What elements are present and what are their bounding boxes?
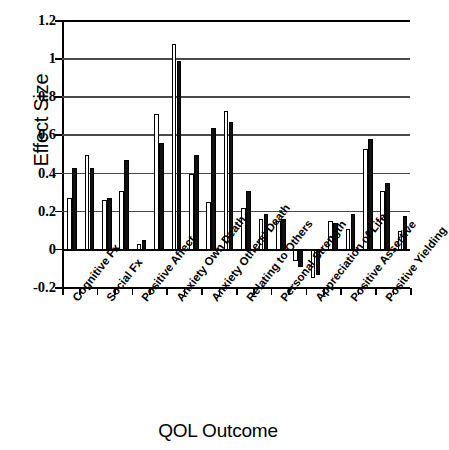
- y-axis-tick-label: 0.2: [10, 203, 56, 220]
- bar: [346, 229, 351, 250]
- x-axis-tick: [79, 288, 81, 295]
- y-axis-tick-label: -0.2: [10, 279, 56, 296]
- y-axis-tick: [55, 134, 62, 136]
- bar: [107, 198, 112, 249]
- bar: [85, 155, 90, 250]
- gridline: [62, 96, 410, 98]
- x-axis-tick: [132, 288, 134, 295]
- bar: [311, 250, 316, 279]
- bar: [363, 149, 368, 250]
- y-axis-tick: [55, 249, 62, 251]
- y-axis-tick-label: 0: [10, 241, 56, 258]
- bar: [316, 250, 321, 275]
- y-axis-tick: [55, 287, 62, 289]
- bar: [368, 139, 373, 250]
- bar: [398, 231, 403, 250]
- y-axis-tick-label: 1.2: [10, 12, 56, 29]
- x-axis-tick: [375, 288, 377, 295]
- bar: [298, 250, 303, 267]
- bar: [328, 221, 333, 250]
- bar: [385, 183, 390, 250]
- bar: [246, 191, 251, 250]
- bar: [281, 219, 286, 250]
- bar: [293, 250, 298, 261]
- bar: [224, 111, 229, 250]
- bar: [72, 168, 77, 250]
- x-axis-tick: [340, 288, 342, 295]
- x-axis-title: QOL Outcome: [0, 420, 436, 442]
- y-axis-tick: [55, 58, 62, 60]
- bar: [154, 114, 159, 249]
- x-axis-tick: [201, 288, 203, 295]
- gridline: [62, 173, 410, 175]
- x-axis-tick: [306, 288, 308, 295]
- bar: [333, 223, 338, 250]
- x-axis-tick: [166, 288, 168, 295]
- y-axis-tick: [55, 20, 62, 22]
- bar: [119, 191, 124, 250]
- plot-area: [62, 21, 410, 288]
- y-axis-tick-label: 0.6: [10, 126, 56, 143]
- bar: [259, 219, 264, 250]
- x-axis-tick: [271, 288, 273, 295]
- x-axis-tick: [358, 288, 360, 295]
- bar: [137, 244, 142, 250]
- x-axis-tick: [184, 288, 186, 295]
- bar: [172, 44, 177, 250]
- x-axis-tick: [253, 288, 255, 295]
- x-axis-tick: [410, 288, 412, 295]
- x-axis-tick: [97, 288, 99, 295]
- y-axis-tick: [55, 173, 62, 175]
- bar: [229, 122, 234, 250]
- bar: [124, 160, 129, 250]
- gridline: [62, 134, 410, 136]
- bar: [67, 198, 72, 249]
- y-axis-tick: [55, 211, 62, 213]
- bar: [264, 214, 269, 250]
- x-axis-tick: [288, 288, 290, 295]
- bar: [194, 155, 199, 250]
- x-axis-tick: [393, 288, 395, 295]
- y-axis-tick: [55, 96, 62, 98]
- bar: [241, 208, 246, 250]
- bar: [403, 216, 408, 250]
- x-axis-tick: [236, 288, 238, 295]
- bar: [102, 200, 107, 250]
- y-axis-tick-label: 1: [10, 50, 56, 67]
- bar: [189, 174, 194, 250]
- x-axis-tick: [62, 288, 64, 295]
- y-axis-tick-label: 0.4: [10, 165, 56, 182]
- bar: [90, 168, 95, 250]
- bar: [276, 221, 281, 250]
- y-axis-tick-label: 0.8: [10, 88, 56, 105]
- x-axis-tick: [323, 288, 325, 295]
- bar: [380, 191, 385, 250]
- bar: [211, 128, 216, 250]
- bar: [177, 61, 182, 250]
- bar: [142, 240, 147, 250]
- x-axis-tick: [114, 288, 116, 295]
- bar: [159, 143, 164, 250]
- gridline: [62, 211, 410, 213]
- x-axis-tick: [219, 288, 221, 295]
- gridline: [62, 58, 410, 60]
- bar: [351, 214, 356, 250]
- x-axis-tick: [149, 288, 151, 295]
- gridline: [62, 20, 410, 22]
- bar: [206, 202, 211, 250]
- gridline: [62, 249, 410, 251]
